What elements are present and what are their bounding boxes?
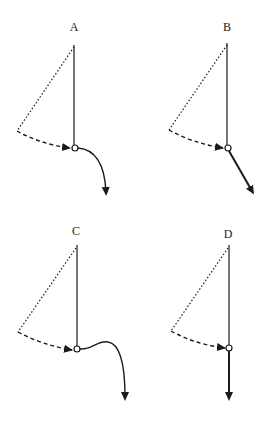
pivot-circle <box>226 345 232 351</box>
panel-label-c: C <box>72 224 80 238</box>
dotted-swing-line <box>169 45 227 130</box>
pivot-circle <box>72 145 78 151</box>
panel-label-a: A <box>70 20 79 34</box>
dotted-swing-line <box>17 47 74 131</box>
pivot-circle <box>225 145 231 151</box>
panel-label-b: B <box>223 20 231 34</box>
pivot-circle <box>74 346 80 352</box>
dashed-arc-arrow <box>17 131 70 148</box>
pendulum-diagram: A B C D <box>0 0 266 427</box>
dotted-swing-line <box>18 248 76 332</box>
panel-a: A <box>17 20 106 192</box>
panel-b: B <box>169 20 252 191</box>
dashed-arc-arrow <box>18 332 72 350</box>
trajectory-arrow <box>78 148 106 192</box>
trajectory-arrow <box>229 151 252 191</box>
dotted-swing-line <box>171 248 228 331</box>
dashed-arc-arrow <box>171 331 225 348</box>
dashed-arc-arrow <box>169 130 223 148</box>
panel-d: D <box>171 227 233 397</box>
panel-c: C <box>18 224 125 397</box>
panel-label-d: D <box>224 227 233 241</box>
trajectory-arrow <box>80 342 125 397</box>
